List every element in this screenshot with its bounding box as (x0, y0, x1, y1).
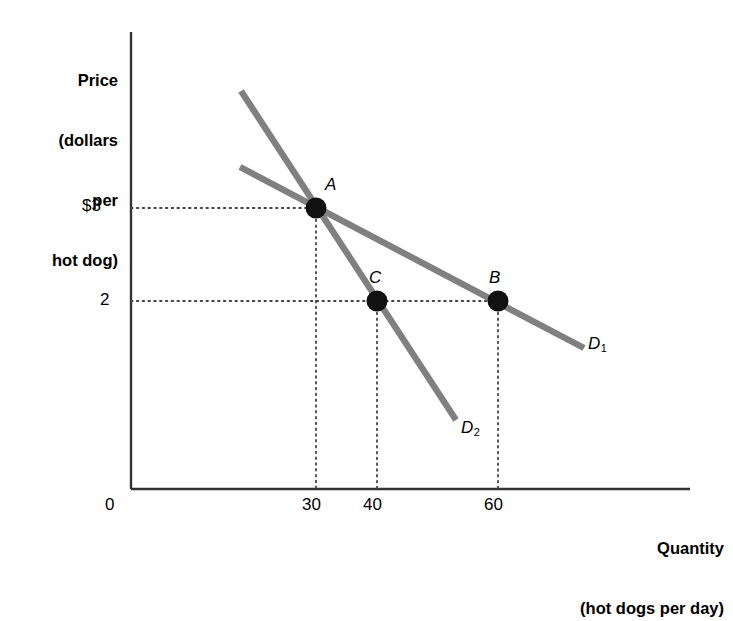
guide-lines (131, 208, 498, 489)
curve-label-d1-subscript: 1 (601, 342, 607, 354)
data-point-label-c: C (369, 268, 381, 288)
data-point-a (306, 198, 327, 219)
y-tick-label-3: $3 (82, 196, 101, 216)
demand-curve-d2 (241, 91, 456, 420)
x-tick-label-30: 30 (302, 495, 321, 515)
x-tick-label-40: 40 (363, 495, 382, 515)
x-axis-title: Quantity (hot dogs per day) (466, 498, 724, 621)
data-point-b (488, 291, 509, 312)
curve-label-d1: D1 (588, 334, 606, 354)
x-axis-title-line-1: Quantity (466, 538, 724, 558)
y-axis-title-line-1: Price (14, 70, 118, 90)
curve-label-d2: D2 (461, 418, 479, 438)
y-axis-title-line-3: per (14, 190, 118, 210)
data-point-c (367, 291, 388, 312)
data-point-label-b: B (489, 268, 500, 288)
y-axis-title: Price (dollars per hot dog) (14, 30, 118, 310)
curve-label-d1-letter: D (588, 334, 600, 353)
axes (131, 32, 690, 489)
x-tick-label-0: 0 (105, 495, 114, 515)
demand-curve-d1 (240, 167, 584, 348)
y-axis-title-line-2: (dollars (14, 130, 118, 150)
x-tick-label-60: 60 (484, 495, 503, 515)
data-point-label-a: A (325, 175, 336, 195)
y-tick-label-2: 2 (100, 290, 109, 310)
curve-label-d2-subscript: 2 (474, 426, 480, 438)
y-axis-title-line-4: hot dog) (14, 250, 118, 270)
x-axis-title-line-2: (hot dogs per day) (466, 598, 724, 618)
curve-label-d2-letter: D (461, 418, 473, 437)
